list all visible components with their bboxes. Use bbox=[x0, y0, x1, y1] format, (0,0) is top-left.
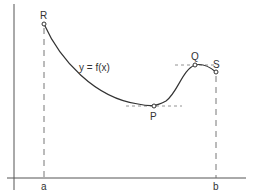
point-p-marker bbox=[152, 104, 156, 108]
curve-label: y = f(x) bbox=[79, 62, 110, 73]
x-tick-b-label: b bbox=[213, 181, 219, 192]
point-p-label: P bbox=[150, 111, 157, 122]
point-q-marker bbox=[193, 63, 197, 67]
function-diagram: R P Q S y = f(x) a b bbox=[0, 0, 254, 195]
point-r-label: R bbox=[40, 10, 47, 21]
function-curve bbox=[44, 24, 216, 106]
x-tick-a-label: a bbox=[41, 181, 47, 192]
point-r-marker bbox=[42, 22, 46, 26]
point-s-label: S bbox=[213, 59, 220, 70]
point-q-label: Q bbox=[191, 51, 199, 62]
point-s-marker bbox=[214, 70, 218, 74]
